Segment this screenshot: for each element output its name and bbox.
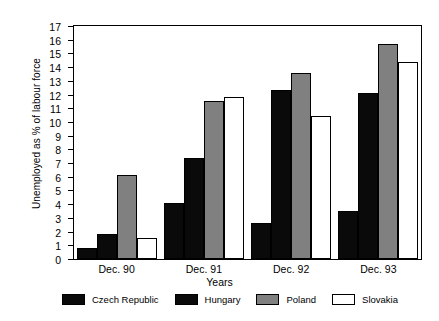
y-axis-tick-label: 13 bbox=[49, 77, 61, 88]
y-axis-tick-label: 0 bbox=[55, 255, 61, 266]
bar-czech-republic bbox=[251, 223, 271, 259]
bar-group bbox=[248, 26, 335, 259]
legend-swatch bbox=[256, 294, 279, 305]
bar-group bbox=[161, 26, 248, 259]
y-axis-title: Unemployed as % of labour force bbox=[31, 24, 42, 244]
y-axis-tick-label: 9 bbox=[55, 131, 61, 142]
legend-swatch bbox=[62, 294, 85, 305]
y-axis-tick-label: 16 bbox=[49, 35, 61, 46]
legend-item-czech-republic: Czech Republic bbox=[62, 294, 159, 305]
y-axis-tick-label: 12 bbox=[49, 90, 61, 101]
unemployment-bar-chart: Unemployed as % of labour force 01234567… bbox=[0, 0, 439, 321]
x-axis-tick-label: Dec. 91 bbox=[160, 263, 247, 275]
bar-hungary bbox=[358, 93, 378, 259]
bar-poland bbox=[117, 175, 137, 259]
bar-poland bbox=[291, 73, 311, 259]
y-axis-tick-label: 11 bbox=[50, 104, 61, 115]
y-axis-tick-label: 2 bbox=[55, 227, 61, 238]
x-axis-title: Years bbox=[0, 276, 439, 288]
bar-czech-republic bbox=[164, 203, 184, 259]
y-axis-tick: 0 bbox=[68, 259, 74, 260]
bar-slovakia bbox=[137, 238, 157, 259]
legend-label: Czech Republic bbox=[92, 294, 159, 305]
legend-label: Poland bbox=[286, 294, 316, 305]
bar-czech-republic bbox=[77, 248, 97, 259]
x-axis-tick-label: Dec. 92 bbox=[248, 263, 335, 275]
y-axis-tick-label: 6 bbox=[55, 173, 61, 184]
y-axis-tick-label: 3 bbox=[55, 214, 61, 225]
legend-swatch bbox=[332, 294, 355, 305]
bar-group bbox=[74, 26, 161, 259]
y-axis-tick-label: 7 bbox=[55, 159, 61, 170]
y-axis-tick-label: 1 bbox=[55, 241, 61, 252]
bar-slovakia bbox=[224, 97, 244, 259]
chart-legend: Czech RepublicHungaryPolandSlovakia bbox=[62, 294, 422, 305]
bar-slovakia bbox=[398, 62, 418, 259]
x-axis-tick-label: Dec. 90 bbox=[73, 263, 160, 275]
plot-area: 01234567891011121314151617 bbox=[73, 25, 422, 260]
legend-item-slovakia: Slovakia bbox=[332, 294, 398, 305]
y-axis-tick-label: 14 bbox=[49, 63, 61, 74]
y-axis-tick-label: 15 bbox=[49, 49, 61, 60]
bar-czech-republic bbox=[338, 211, 358, 259]
bar-group bbox=[334, 26, 421, 259]
bar-groups bbox=[74, 26, 421, 259]
legend-swatch bbox=[175, 294, 198, 305]
bar-poland bbox=[204, 101, 224, 259]
legend-item-hungary: Hungary bbox=[175, 294, 241, 305]
y-axis-tick-label: 5 bbox=[55, 186, 61, 197]
bar-hungary bbox=[184, 158, 204, 259]
y-axis-tick-label: 4 bbox=[55, 200, 61, 211]
x-axis-tick-label: Dec. 93 bbox=[335, 263, 422, 275]
y-axis-tick-label: 8 bbox=[55, 145, 61, 156]
legend-item-poland: Poland bbox=[256, 294, 316, 305]
x-axis-tick-labels: Dec. 90Dec. 91Dec. 92Dec. 93 bbox=[73, 263, 422, 275]
bar-hungary bbox=[271, 90, 291, 259]
bar-slovakia bbox=[311, 116, 331, 259]
legend-label: Hungary bbox=[205, 294, 241, 305]
bar-poland bbox=[378, 44, 398, 259]
bar-hungary bbox=[97, 234, 117, 259]
legend-label: Slovakia bbox=[362, 294, 398, 305]
y-axis-tick-label: 17 bbox=[49, 22, 61, 33]
y-axis-tick-label: 10 bbox=[49, 118, 61, 129]
